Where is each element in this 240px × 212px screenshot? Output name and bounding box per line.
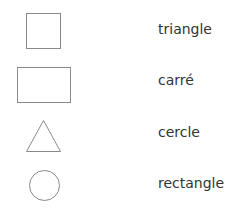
label-cercle[interactable]: cercle xyxy=(158,124,200,140)
square-shape[interactable] xyxy=(0,0,120,212)
label-rectangle[interactable]: rectangle xyxy=(158,175,224,191)
label-carre[interactable]: carré xyxy=(158,72,194,88)
label-triangle[interactable]: triangle xyxy=(158,21,212,37)
